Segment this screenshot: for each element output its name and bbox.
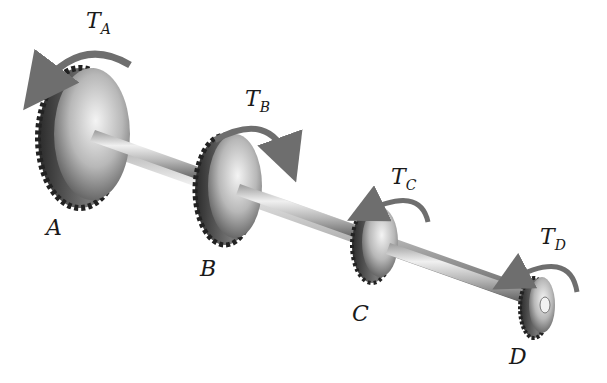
gear-a: [38, 68, 210, 208]
torque-label-d: TD: [540, 226, 566, 248]
torque-symbol: T: [245, 86, 260, 111]
torque-subscript: B: [260, 99, 270, 115]
gear-label-d: D: [509, 346, 527, 368]
gear-label-b: B: [200, 258, 216, 280]
torque-subscript: D: [555, 237, 566, 253]
diagram-graphic: [0, 0, 607, 383]
torque-label-c: TC: [391, 166, 416, 188]
torque-subscript: C: [406, 177, 417, 193]
torque-label-a: TA: [86, 10, 111, 32]
gear-d: [520, 277, 555, 338]
shaft-gear-diagram: TA TB TC TD A B C D: [0, 0, 607, 383]
torque-symbol: T: [540, 224, 555, 249]
torque-symbol: T: [391, 164, 406, 189]
gear-label-c: C: [352, 303, 369, 325]
torque-symbol: T: [86, 8, 101, 33]
torque-label-b: TB: [245, 88, 270, 110]
gear-label-a: A: [46, 217, 62, 239]
torque-subscript: A: [101, 21, 111, 37]
